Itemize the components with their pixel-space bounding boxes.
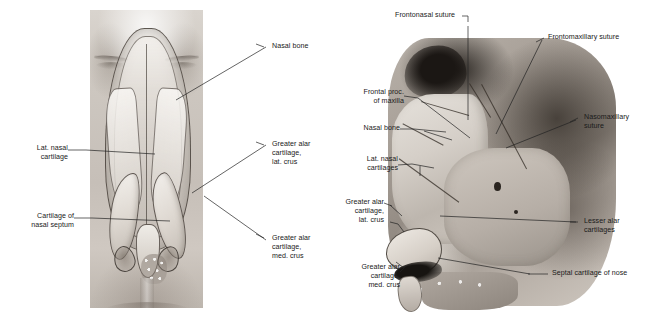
label-left-lat-nasal-cartilage: Lat. nasal cartilage [6, 144, 68, 162]
label-right-greater-alar-cartilage-lat-crus: Greater alar cartilage, lat. crus [322, 198, 384, 226]
nutrient-foramen [514, 210, 518, 214]
label-right-lesser-alar-cartilages: Lesser alar cartilages [584, 217, 650, 235]
label-right-frontal-proc-of-maxilla: Frontal proc. of maxilla [338, 88, 404, 106]
maxilla-body [444, 148, 570, 266]
illustration-frontal-view [90, 10, 203, 308]
label-left-nasal-bone: Nasal bone [272, 42, 336, 51]
infraorbital-foramen [494, 182, 501, 191]
anatomical-figure-plate: Nasal bone Lat. nasal cartilage Cartilag… [0, 0, 654, 319]
label-right-nasal-bone: Nasal bone [338, 124, 400, 133]
label-right-greater-alar-cartilage-med-crus: Greater alar cartilage, med. crus [336, 263, 400, 291]
leader-left-greater-alar-med-crus [204, 196, 266, 240]
label-right-nasomaxillary-suture: Nasomaxillary suture [584, 113, 654, 131]
label-right-septal-cartilage-of-nose: Septal cartilage of nose [552, 269, 654, 278]
label-right-frontomaxillary-suture: Frontomaxillary suture [548, 33, 648, 42]
label-right-lat-nasal-cartilages: Lat. nasal cartilages [336, 155, 398, 173]
nasal-septum-midline [146, 44, 147, 230]
leader-left-greater-alar-lat-crus [192, 142, 266, 193]
alveolar-ridge [422, 272, 518, 310]
label-left-greater-alar-cartilage-med-crus: Greater alar cartilage, med. crus [272, 234, 338, 262]
label-right-frontonasal-suture: Frontonasal suture [395, 11, 477, 20]
label-left-greater-alar-cartilage-lat-crus: Greater alar cartilage, lat. crus [272, 140, 338, 168]
label-left-cartilage-of-nasal-septum: Cartilage of nasal septum [4, 212, 74, 230]
